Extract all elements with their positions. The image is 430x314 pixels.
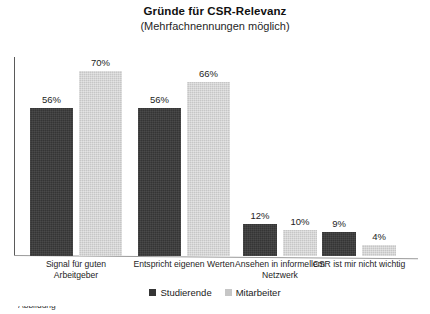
title-block: Gründe für CSR-Relevanz (Mehrfachnennung… — [0, 4, 430, 33]
bar-value-label: 70% — [91, 57, 110, 68]
chart-figure: Gründe für CSR-Relevanz (Mehrfachnennung… — [0, 0, 430, 314]
bar-group-item: 4% — [362, 58, 396, 256]
bar-value-label: 66% — [199, 68, 218, 79]
bar-value-label: 56% — [150, 94, 169, 105]
bar-group-item: 12% — [243, 58, 277, 256]
bar-group-item: 10% — [283, 58, 317, 256]
legend-item-1[interactable]: Mitarbeiter — [225, 287, 281, 298]
bar-1-1 — [187, 82, 230, 256]
bar-1-3 — [362, 245, 396, 256]
bar-0-0 — [30, 108, 73, 256]
category-label-3: CSR ist mir nicht wichtig — [311, 259, 407, 270]
chart-subtitle: (Mehrfachnennungen möglich) — [0, 19, 430, 33]
bar-value-label: 10% — [290, 216, 309, 227]
bar-value-label: 12% — [250, 210, 269, 221]
bar-group-item: 66% — [187, 58, 230, 256]
chart-title: Gründe für CSR-Relevanz — [0, 4, 430, 18]
bar-1-0 — [79, 71, 122, 256]
plot-area: 56%70%56%66%12%10%9%4% — [14, 57, 418, 256]
bar-1-2 — [283, 230, 317, 256]
legend-swatch-icon — [149, 289, 156, 296]
bar-group-item: 56% — [30, 58, 73, 256]
y-axis-line — [14, 57, 15, 256]
bar-value-label: 9% — [332, 218, 346, 229]
bar-group-item: 9% — [322, 58, 356, 256]
legend-swatch-icon — [225, 289, 232, 296]
legend-label: Studierende — [160, 287, 211, 298]
bar-0-1 — [138, 108, 181, 256]
bar-group-item: 70% — [79, 58, 122, 256]
legend-item-0[interactable]: Studierende — [149, 287, 211, 298]
bar-group-item: 56% — [138, 58, 181, 256]
category-axis-labels: Signal für guten ArbeitgeberEntspricht e… — [14, 259, 418, 283]
bar-0-3 — [322, 232, 356, 256]
bar-value-label: 4% — [372, 231, 386, 242]
bar-0-2 — [243, 224, 277, 256]
legend-label: Mitarbeiter — [236, 287, 281, 298]
chart-legend: StudierendeMitarbeiter — [0, 287, 430, 298]
caption-text: Abbildung — [18, 306, 92, 310]
category-label-1: Entspricht eigenen Werten — [132, 259, 236, 270]
bar-value-label: 56% — [42, 94, 61, 105]
category-label-0: Signal für guten Arbeitgeber — [24, 259, 128, 280]
caption-cutoff: Abbildung — [18, 306, 92, 314]
